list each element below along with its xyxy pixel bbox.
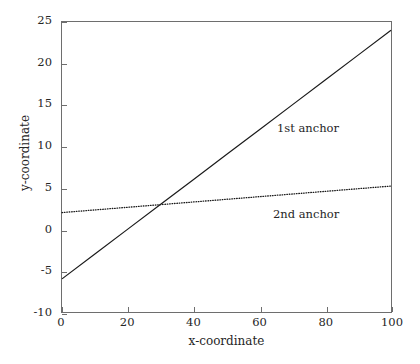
x-tick-label: 20 xyxy=(97,316,157,329)
series-line-1st-anchor xyxy=(62,30,391,279)
x-tick-label: 0 xyxy=(31,316,91,329)
plot-area xyxy=(61,21,392,313)
y-tick-label: 0 xyxy=(0,223,52,236)
y-axis-label: y-coordinate xyxy=(18,83,32,223)
data-lines xyxy=(62,22,391,312)
y-tick-label: 20 xyxy=(0,56,52,69)
series-annotation-1st-anchor: 1st anchor xyxy=(277,122,339,135)
y-tick-mark xyxy=(62,314,67,315)
x-tick-mark xyxy=(392,307,393,312)
x-tick-label: 40 xyxy=(163,316,223,329)
x-tick-label: 60 xyxy=(230,316,290,329)
series-annotation-2nd-anchor: 2nd anchor xyxy=(273,208,339,221)
x-axis-label: x-coordinate xyxy=(61,334,392,348)
chart-figure: 25 20 15 10 5 0 -5 -10 0 20 40 60 80 100… xyxy=(0,0,420,364)
y-tick-label: -5 xyxy=(0,264,52,277)
y-tick-label: 25 xyxy=(0,14,52,27)
series-line-2nd-anchor xyxy=(62,186,391,213)
x-tick-label: 100 xyxy=(362,316,420,329)
x-tick-label: 80 xyxy=(296,316,356,329)
